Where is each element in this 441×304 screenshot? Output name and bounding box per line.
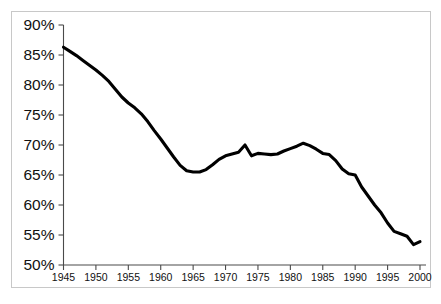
y-tick-label: 90% — [23, 16, 54, 33]
y-tick-label: 75% — [23, 106, 54, 123]
x-tick-label: 2000 — [408, 271, 432, 283]
y-tick-label: 55% — [23, 226, 54, 243]
y-tick-label: 60% — [23, 196, 54, 213]
x-tick-label: 1975 — [246, 271, 270, 283]
x-axis-tick-labels: 1945195019551960196519701975198019851990… — [52, 271, 432, 283]
y-tick-label: 50% — [23, 256, 54, 273]
y-axis — [59, 25, 64, 265]
y-axis-tick-labels: 90%85%80%75%70%65%60%55%50% — [23, 16, 54, 273]
x-axis — [64, 265, 427, 270]
x-tick-label: 1995 — [376, 271, 400, 283]
y-tick-label: 65% — [23, 166, 54, 183]
x-tick-label: 1945 — [52, 271, 76, 283]
x-tick-label: 1970 — [214, 271, 238, 283]
data-series-line — [64, 47, 421, 244]
y-tick-label: 85% — [23, 46, 54, 63]
x-tick-label: 1965 — [181, 271, 205, 283]
x-tick-label: 1985 — [311, 271, 335, 283]
x-tick-label: 1990 — [344, 271, 368, 283]
x-tick-label: 1950 — [84, 271, 108, 283]
chart-figure: 90%85%80%75%70%65%60%55%50% 194519501955… — [0, 0, 441, 304]
x-tick-label: 1980 — [279, 271, 303, 283]
x-tick-label: 1955 — [117, 271, 141, 283]
y-tick-label: 70% — [23, 136, 54, 153]
line-chart: 90%85%80%75%70%65%60%55%50% 194519501955… — [0, 0, 441, 304]
y-tick-label: 80% — [23, 76, 54, 93]
x-tick-label: 1960 — [149, 271, 173, 283]
